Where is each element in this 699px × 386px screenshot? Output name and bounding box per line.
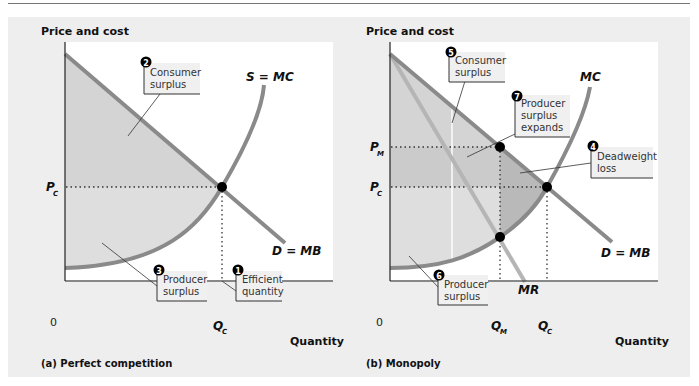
qc-tick-label-b: Q C (538, 319, 553, 336)
badge-6-number: 6 (436, 272, 442, 281)
demand-curve-label-b: D = MB (601, 246, 650, 260)
badge-2-number: 2 (143, 59, 149, 68)
y-axis-label-b: Price and cost (366, 25, 454, 38)
callout-4-text-2: loss (597, 163, 616, 174)
badge-5-number: 5 (448, 49, 454, 58)
qm-tick-label: Q M (491, 319, 507, 336)
badge-3-number: 3 (156, 267, 162, 276)
callout-2-text-1: Consumer (150, 67, 202, 78)
competitive-equilibrium-point-b (542, 182, 552, 192)
panel-title-a: (a) Perfect competition (41, 358, 172, 369)
badge-1-number: 1 (235, 267, 241, 276)
callout-1-text-2: quantity (242, 286, 284, 297)
callout-1-text-1: Efficient (242, 274, 283, 285)
callout-6-text-2: surplus (444, 291, 480, 302)
callout-3-text-1: Producer (163, 274, 208, 285)
mr-curve-label: MR (518, 283, 539, 297)
panel-title-b: (b) Monopoly (366, 358, 441, 369)
equilibrium-point-a (217, 182, 227, 192)
figure: 2 Consumer surplus 3 Producer surplus 1 … (0, 0, 699, 386)
x-axis-label-b: Quantity (615, 335, 669, 348)
svg-text:C: C (222, 328, 228, 336)
origin-label-a: 0 (50, 316, 57, 329)
svg-text:M: M (377, 150, 384, 158)
y-axis-label-a: Price and cost (41, 25, 129, 38)
origin-label-b: 0 (376, 316, 383, 329)
callout-7-text-1: Producer (521, 98, 566, 109)
mc-curve-label-b: MC (580, 70, 601, 84)
supply-curve-label-a: S = MC (246, 70, 294, 84)
svg-text:C: C (547, 328, 553, 336)
pc-tick-label-a: P C (46, 180, 59, 198)
pc-tick-label-b: P C (370, 180, 383, 198)
mr-equals-mc-point (495, 232, 505, 242)
panel-perfect-competition: 2 Consumer surplus 3 Producer surplus 1 … (41, 25, 344, 369)
callout-3-text-2: surplus (163, 286, 199, 297)
demand-curve-label-a: D = MB (272, 244, 321, 258)
callout-4-text-1: Deadweight (597, 151, 657, 162)
svg-text:M: M (500, 328, 507, 336)
qc-tick-label-a: Q C (213, 319, 228, 336)
callout-7-text-2: surplus (521, 110, 557, 121)
producer-surplus-expands-area (390, 147, 500, 187)
monopoly-price-point (495, 142, 505, 152)
svg-text:C: C (377, 190, 383, 198)
panel-monopoly: 5 Consumer surplus 7 Producer surplus ex… (366, 25, 669, 369)
pm-tick-label: P M (370, 140, 384, 158)
callout-2-text-2: surplus (150, 79, 186, 90)
callout-6-text-1: Producer (444, 279, 489, 290)
svg-text:C: C (53, 190, 59, 198)
badge-7-number: 7 (514, 93, 520, 102)
callout-5-text-2: surplus (455, 67, 491, 78)
badge-4-number: 4 (590, 143, 596, 152)
callout-7-text-3: expands (521, 122, 563, 133)
callout-5-text-1: Consumer (455, 55, 507, 66)
x-axis-label-a: Quantity (290, 335, 344, 348)
